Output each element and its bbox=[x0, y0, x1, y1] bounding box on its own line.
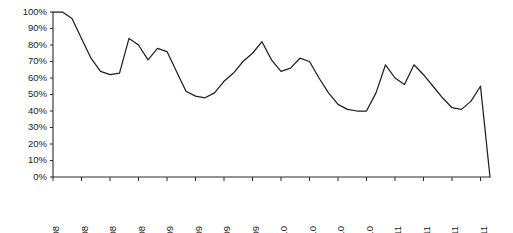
x-tick-label: Dec-10 bbox=[364, 226, 375, 233]
y-tick-label: 70% bbox=[28, 55, 48, 66]
y-tick-label: 10% bbox=[28, 154, 48, 165]
x-tick-label: Dec-09 bbox=[250, 226, 261, 233]
y-tick-label: 80% bbox=[28, 39, 48, 50]
y-axis-tick-labels: 100%90%80%70%60%50%40%30%20%10%0% bbox=[23, 6, 48, 182]
line-chart: 100%90%80%70%60%50%40%30%20%10%0% Mar-08… bbox=[0, 0, 513, 233]
x-tick-label: Mar-11 bbox=[392, 226, 403, 233]
x-tick-label: Sep-08 bbox=[107, 226, 118, 233]
x-tick-label: Mar-09 bbox=[164, 226, 175, 233]
x-tick-label: Dec-08 bbox=[136, 226, 147, 233]
y-tick-label: 0% bbox=[33, 171, 47, 182]
x-tick-label: Jun-08 bbox=[79, 226, 90, 233]
y-tick-label: 20% bbox=[28, 138, 48, 149]
chart-canvas: 100%90%80%70%60%50%40%30%20%10%0% Mar-08… bbox=[0, 0, 513, 233]
x-axis-tick-labels: Mar-08Jun-08Sep-08Dec-08Mar-09Jun-09Sep-… bbox=[50, 226, 489, 233]
x-tick-label: Jun-11 bbox=[421, 226, 432, 233]
y-tick-label: 100% bbox=[23, 6, 48, 17]
x-tick-label: Jun-09 bbox=[193, 226, 204, 233]
x-axis-ticks bbox=[53, 177, 481, 181]
y-tick-label: 60% bbox=[28, 72, 48, 83]
x-tick-label: Mar-08 bbox=[50, 226, 61, 233]
x-tick-label: Mar-10 bbox=[278, 226, 289, 233]
x-tick-label: Sep-10 bbox=[335, 226, 346, 233]
y-tick-label: 90% bbox=[28, 22, 48, 33]
axis-lines bbox=[53, 12, 490, 177]
y-tick-label: 50% bbox=[28, 88, 48, 99]
data-series-line bbox=[53, 12, 490, 177]
x-tick-label: Jun-10 bbox=[307, 226, 318, 233]
x-tick-label: Sep-11 bbox=[449, 226, 460, 233]
x-tick-label: Sep-09 bbox=[221, 226, 232, 233]
y-tick-label: 30% bbox=[28, 121, 48, 132]
x-tick-label: Dec-11 bbox=[478, 226, 489, 233]
y-tick-label: 40% bbox=[28, 105, 48, 116]
